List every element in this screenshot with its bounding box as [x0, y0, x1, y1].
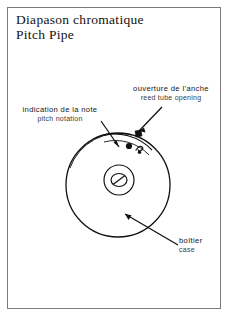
callout-reed-tube-opening-english: reed tube opening	[118, 93, 224, 102]
page-title: Diapason chromatique Pitch Pipe	[16, 13, 196, 42]
callout-pitch-notation: indication de la note pitch notation	[8, 105, 112, 123]
callout-case-french: boîtier	[179, 236, 225, 245]
callout-case-english: case	[179, 245, 225, 254]
page-frame-border	[7, 7, 221, 309]
callout-case: boîtier case	[179, 236, 225, 254]
title-line-french: Diapason chromatique	[16, 13, 196, 28]
callout-pitch-notation-french: indication de la note	[8, 105, 112, 114]
callout-reed-tube-opening: ouverture de l’anche reed tube opening	[118, 84, 224, 102]
callout-reed-tube-opening-french: ouverture de l’anche	[118, 84, 224, 93]
illustration-page: Diapason chromatique Pitch Pipe ouvertur…	[0, 0, 230, 319]
callout-pitch-notation-english: pitch notation	[8, 114, 112, 123]
title-line-english: Pitch Pipe	[16, 28, 196, 43]
